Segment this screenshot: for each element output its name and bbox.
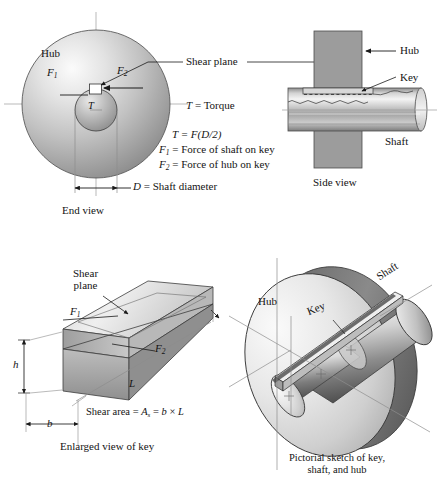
pictorial-hub-label: Hub xyxy=(258,295,277,307)
key-width-label: b xyxy=(47,417,53,429)
pictorial-caption: Pictorial sketch of key, shaft, and hub xyxy=(262,452,412,476)
engineering-figure xyxy=(0,0,441,482)
end-view-force1-label: F1 xyxy=(47,66,57,80)
force1-subscript: 1 xyxy=(54,71,58,80)
pictorial-caption-line1: Pictorial sketch of key, xyxy=(262,452,412,464)
force1-symbol: F xyxy=(47,66,54,78)
side-view-key-label: Key xyxy=(400,71,418,83)
end-view-hub-label: Hub xyxy=(41,47,60,59)
key-force2-symbol: F xyxy=(155,342,162,354)
key-force1-subscript: 1 xyxy=(77,310,81,319)
enlarged-key-caption: Enlarged view of key xyxy=(60,440,154,452)
shear-area-formula: Shear area = As = b × L xyxy=(86,406,184,419)
key-shear-plane-line2: plane xyxy=(73,279,98,291)
key-shear-plane-line1: Shear xyxy=(73,267,98,279)
side-view-hub-label: Hub xyxy=(400,44,419,56)
shear-area-text-2: = xyxy=(150,406,161,417)
torque-definition-text: = Torque xyxy=(192,99,235,111)
torque-formula-rhs: = F(D/2) xyxy=(178,128,221,140)
force2-subscript: 2 xyxy=(124,69,128,78)
shear-plane-label: Shear plane xyxy=(186,55,238,67)
shear-area-symbol-L: L xyxy=(178,406,184,417)
key-force1-label: F1 xyxy=(70,305,80,319)
end-view-torque-label: T xyxy=(88,100,94,112)
end-view-caption: End view xyxy=(62,204,104,216)
shear-area-leader xyxy=(72,396,86,406)
force1-definition: F1 = Force of shaft on key xyxy=(159,143,275,157)
torque-definition: T = Torque xyxy=(186,99,235,111)
force2-definition-symbol: F xyxy=(159,158,166,170)
side-view-shaft-end-ellipse xyxy=(415,88,427,131)
force1-definition-text: = Force of shaft on key xyxy=(169,143,274,155)
diameter-note: D = Shaft diameter xyxy=(133,180,217,192)
side-view-caption: Side view xyxy=(313,176,357,188)
torque-formula: T = F(D/2) xyxy=(172,128,221,140)
key-shear-plane-label: Shear plane xyxy=(73,267,98,292)
key-force1-symbol: F xyxy=(70,305,77,317)
key-height-label: h xyxy=(13,358,19,370)
keyway-square xyxy=(90,84,102,94)
pictorial-group xyxy=(222,247,440,476)
diameter-note-text: = Shaft diameter xyxy=(141,180,217,192)
shear-area-text-1: Shear area = xyxy=(86,406,141,417)
pictorial-caption-line2: shaft, and hub xyxy=(262,464,412,476)
diameter-symbol: D xyxy=(133,180,141,192)
figure-canvas xyxy=(0,0,441,482)
side-view-shaft-label: Shaft xyxy=(385,135,408,147)
force2-definition-text: = Force of hub on key xyxy=(169,158,269,170)
key-force2-subscript: 2 xyxy=(162,347,166,356)
shear-area-times: × xyxy=(167,406,178,417)
key-height-ext-bottom xyxy=(30,390,62,393)
key-length-label: L xyxy=(129,377,135,389)
key-height-ext-top xyxy=(30,332,62,340)
force1-definition-symbol: F xyxy=(159,143,166,155)
force2-definition: F2 = Force of hub on key xyxy=(159,158,270,172)
force2-symbol: F xyxy=(117,64,124,76)
key-force2-label: F2 xyxy=(155,342,165,356)
end-view-force2-label: F2 xyxy=(117,64,127,78)
